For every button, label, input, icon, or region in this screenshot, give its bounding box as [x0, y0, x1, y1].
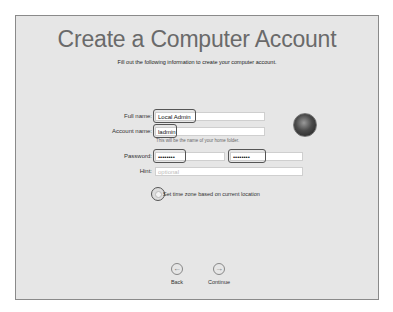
timezone-label: Set time zone based on current location: [163, 191, 260, 197]
timezone-checkbox-inner: [155, 191, 162, 198]
account-name-note: This will be the name of your home folde…: [156, 138, 239, 143]
setup-panel: Create a Computer Account Fill out the f…: [15, 15, 379, 300]
account-name-label: Account name:: [82, 128, 152, 134]
verify-password-highlight: [228, 149, 266, 163]
password-label: Password:: [82, 153, 152, 159]
hint-label: Hint:: [82, 168, 152, 174]
continue-label: Continue: [199, 279, 239, 285]
page-title: Create a Computer Account: [16, 26, 378, 53]
continue-arrow-icon: →: [213, 263, 225, 275]
account-name-highlight: [153, 124, 177, 138]
back-arrow-icon: ←: [171, 263, 183, 275]
back-button[interactable]: ← Back: [157, 263, 197, 285]
full-name-label: Full name:: [82, 113, 152, 119]
full-name-highlight: [153, 109, 196, 123]
continue-button[interactable]: → Continue: [199, 263, 239, 285]
user-picture-avatar[interactable]: [293, 113, 317, 137]
hint-field[interactable]: optional: [155, 167, 303, 176]
password-highlight: [153, 149, 186, 163]
page-subtitle: Fill out the following information to cr…: [16, 59, 378, 65]
back-label: Back: [157, 279, 197, 285]
